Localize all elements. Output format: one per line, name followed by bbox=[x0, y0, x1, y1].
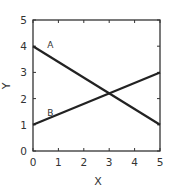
y-axis-label: Y bbox=[0, 82, 13, 90]
y-tick-label: 2 bbox=[20, 93, 27, 105]
x-axis-label: X bbox=[94, 175, 102, 188]
y-tick-label: 4 bbox=[20, 40, 27, 52]
y-tick-label: 1 bbox=[20, 119, 27, 131]
chart: 012345012345 AB X Y bbox=[0, 0, 175, 195]
x-tick-label: 5 bbox=[157, 156, 164, 168]
x-tick-label: 1 bbox=[55, 156, 62, 168]
series-label-a: A bbox=[47, 40, 54, 50]
x-tick-label: 3 bbox=[106, 156, 113, 168]
x-tick-label: 4 bbox=[131, 156, 138, 168]
series-labels: AB bbox=[47, 40, 54, 118]
x-tick-label: 2 bbox=[80, 156, 87, 168]
y-tick-label: 3 bbox=[20, 66, 27, 78]
series-label-b: B bbox=[47, 108, 53, 118]
tick-labels: 012345012345 bbox=[20, 14, 163, 168]
y-tick-label: 5 bbox=[20, 14, 27, 26]
y-tick-label: 0 bbox=[20, 145, 27, 157]
x-tick-label: 0 bbox=[30, 156, 37, 168]
